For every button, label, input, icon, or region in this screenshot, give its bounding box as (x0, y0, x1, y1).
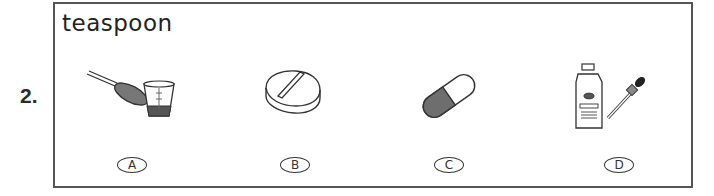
eye-drops-bottle-and-dropper-icon (572, 62, 662, 134)
capsule-icon (418, 70, 480, 122)
answer-bubble-c[interactable]: C (434, 157, 464, 173)
tablet-pill-icon (262, 66, 324, 118)
answer-bubble-d[interactable]: D (604, 157, 634, 173)
question-word: teaspoon (62, 10, 173, 36)
answer-bubble-a[interactable]: A (117, 157, 147, 173)
measuring-spoon-and-cup-icon (85, 68, 180, 123)
question-number: 2. (20, 84, 38, 108)
answer-bubble-b[interactable]: B (280, 157, 310, 173)
